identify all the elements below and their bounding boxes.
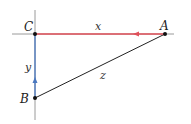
right-triangle-diagram: C A B x y z <box>0 0 191 124</box>
point-b <box>33 96 37 100</box>
label-b: B <box>19 92 29 106</box>
label-y: y <box>24 61 32 74</box>
arrow-left-icon <box>133 32 139 37</box>
diagram-canvas: C A B x y z <box>0 0 191 124</box>
label-x: x <box>95 20 102 33</box>
arrow-up-icon <box>33 77 38 83</box>
label-a: A <box>159 19 169 33</box>
label-z: z <box>99 69 106 82</box>
point-c <box>33 32 37 36</box>
label-c: C <box>24 20 33 34</box>
segment-z <box>35 34 165 98</box>
